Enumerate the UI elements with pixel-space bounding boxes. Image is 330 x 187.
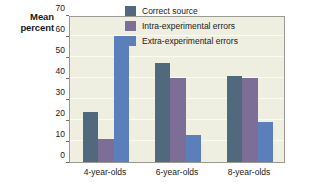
legend-item: Extra-experimental errors bbox=[125, 33, 280, 48]
y-axis-tick-label: 0 bbox=[60, 151, 65, 159]
legend-swatch bbox=[125, 36, 136, 46]
legend-item: Correct source bbox=[125, 3, 280, 18]
x-axis-tick-label: 4-year-olds bbox=[69, 167, 141, 177]
bar bbox=[170, 78, 186, 162]
bar bbox=[155, 63, 171, 162]
bar-chart-figure: Meanpercent 010203040506070 4-year-olds6… bbox=[0, 0, 330, 187]
x-axis-tick-label: 8-year-olds bbox=[213, 167, 285, 177]
bar bbox=[98, 139, 114, 162]
y-axis-tick-label: 30 bbox=[56, 88, 65, 96]
bar bbox=[186, 135, 202, 162]
y-axis-tick-label: 60 bbox=[56, 25, 65, 33]
bar bbox=[258, 122, 274, 162]
y-axis-tick-label: 70 bbox=[56, 4, 65, 12]
bar bbox=[227, 76, 243, 162]
legend-swatch bbox=[125, 21, 136, 31]
legend-swatch bbox=[125, 6, 136, 16]
bar bbox=[83, 112, 99, 162]
legend-item: Intra-experimental errors bbox=[125, 18, 280, 33]
bar bbox=[114, 36, 130, 162]
legend-label: Extra-experimental errors bbox=[142, 36, 238, 46]
y-axis-tick-label: 20 bbox=[56, 109, 65, 117]
y-axis-tick-label: 50 bbox=[56, 46, 65, 54]
y-axis-tick-labels: 010203040506070 bbox=[43, 16, 65, 163]
y-axis-tick-label: 40 bbox=[56, 67, 65, 75]
x-axis-tick-labels: 4-year-olds6-year-olds8-year-olds bbox=[69, 167, 285, 183]
legend-label: Intra-experimental errors bbox=[142, 21, 235, 31]
bar bbox=[242, 78, 258, 162]
bar-group bbox=[83, 17, 130, 162]
legend-label: Correct source bbox=[142, 6, 198, 16]
x-axis-tick-label: 6-year-olds bbox=[141, 167, 213, 177]
chart-legend: Correct sourceIntra-experimental errorsE… bbox=[125, 3, 280, 48]
y-axis-tick-label: 10 bbox=[56, 130, 65, 138]
